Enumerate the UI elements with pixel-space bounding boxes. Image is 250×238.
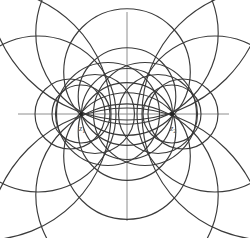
limit-point-z1-dot — [79, 112, 83, 116]
apollonian-circles-figure: z1z2 — [0, 0, 250, 238]
limit-point-z2-subscript: 2 — [173, 128, 176, 134]
limit-point-z2-dot — [170, 112, 174, 116]
outer-arcs-group — [0, 0, 250, 238]
limit-point-z1-subscript: 1 — [82, 128, 85, 134]
figure-canvas: z1z2 — [0, 0, 250, 238]
limit-point-z1-label: z1 — [78, 123, 85, 134]
